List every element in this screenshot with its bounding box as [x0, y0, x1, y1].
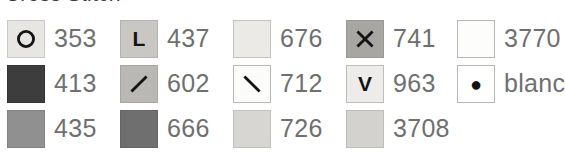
legend-entry[interactable]: V963 — [339, 61, 450, 106]
color-swatch: L — [120, 20, 158, 58]
legend-entry[interactable]: 726 — [226, 106, 339, 151]
color-swatch: V — [346, 65, 384, 103]
thread-code-label: 353 — [54, 26, 97, 51]
thread-code-label: 435 — [54, 116, 97, 141]
legend-grid: 353L4376767413770413602712V963●blanc4356… — [0, 16, 561, 151]
letter-l-symbol: L — [121, 21, 157, 57]
no-symbol — [347, 111, 383, 147]
no-symbol — [8, 111, 44, 147]
legend-entry[interactable]: L437 — [113, 16, 226, 61]
color-swatch — [233, 20, 271, 58]
thread-code-label: 963 — [393, 71, 436, 96]
no-symbol — [121, 111, 157, 147]
filled-dot-symbol: ● — [458, 66, 494, 102]
page-title: Cross Stitch — [5, 0, 121, 5]
thread-code-label: 602 — [167, 71, 210, 96]
legend-entry[interactable]: 712 — [226, 61, 339, 106]
legend-entry[interactable]: 666 — [113, 106, 226, 151]
no-symbol — [458, 21, 494, 57]
legend-entry[interactable]: 353 — [0, 16, 113, 61]
no-symbol — [234, 21, 270, 57]
color-swatch — [7, 65, 45, 103]
legend-entry[interactable]: 3770 — [450, 16, 561, 61]
thread-code-label: 437 — [167, 26, 210, 51]
thread-code-label: 3770 — [504, 26, 561, 51]
legend-entry[interactable]: 602 — [113, 61, 226, 106]
color-swatch: ● — [457, 65, 495, 103]
color-swatch — [7, 110, 45, 148]
color-swatch — [457, 20, 495, 58]
no-symbol — [8, 66, 44, 102]
letter-v-symbol: V — [347, 66, 383, 102]
legend-entry[interactable]: ●blanc — [450, 61, 561, 106]
color-swatch — [233, 110, 271, 148]
legend-entry[interactable]: 676 — [226, 16, 339, 61]
color-swatch — [233, 65, 271, 103]
no-symbol — [234, 111, 270, 147]
legend-entry[interactable]: 3708 — [339, 106, 450, 151]
legend-entry[interactable]: 413 — [0, 61, 113, 106]
letter-o-symbol — [8, 21, 44, 57]
color-swatch — [120, 110, 158, 148]
legend-entry[interactable]: 435 — [0, 106, 113, 151]
thread-code-label: blanc — [504, 71, 565, 96]
thread-code-label: 666 — [167, 116, 210, 141]
color-swatch — [346, 110, 384, 148]
thread-code-label: 3708 — [393, 116, 450, 141]
color-swatch — [120, 65, 158, 103]
thread-code-label: 712 — [280, 71, 323, 96]
forward-slash-symbol — [121, 66, 157, 102]
legend-entry[interactable]: 741 — [339, 16, 450, 61]
thread-code-label: 413 — [54, 71, 97, 96]
letter-x-symbol — [347, 21, 383, 57]
backslash-symbol — [234, 66, 270, 102]
thread-code-label: 741 — [393, 26, 436, 51]
thread-code-label: 726 — [280, 116, 323, 141]
color-swatch — [7, 20, 45, 58]
color-swatch — [346, 20, 384, 58]
thread-code-label: 676 — [280, 26, 323, 51]
